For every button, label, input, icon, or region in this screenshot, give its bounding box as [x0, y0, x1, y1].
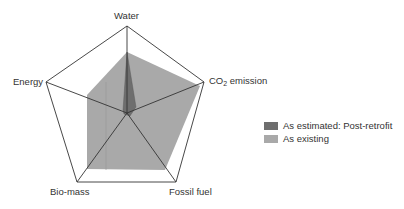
axis-label-water: Water — [114, 10, 139, 21]
axis-label-energy: Energy — [13, 76, 43, 87]
series-as-existing — [87, 52, 200, 170]
axis-label-fossil-fuel: Fossil fuel — [169, 186, 212, 197]
axis-label-co2-emission: CO2 emission — [209, 75, 267, 86]
legend-label: As estimated: Post-retrofit — [283, 120, 392, 131]
radar-chart — [0, 0, 404, 209]
co2-text: CO — [209, 75, 223, 86]
axis-label-bio-mass: Bio-mass — [50, 186, 90, 197]
emission-text: emission — [227, 75, 267, 86]
legend-item-post-retrofit: As estimated: Post-retrofit — [264, 119, 392, 132]
chart-legend: As estimated: Post-retrofit As existing — [264, 119, 392, 145]
legend-label: As existing — [283, 133, 329, 144]
legend-swatch-dark — [264, 122, 278, 130]
legend-swatch-light — [264, 135, 278, 143]
legend-item-as-existing: As existing — [264, 132, 392, 145]
